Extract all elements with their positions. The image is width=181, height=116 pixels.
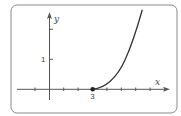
graph-figure: x 3 y 1 <box>0 0 181 116</box>
y-axis-label: y <box>53 14 60 24</box>
start-point-dot <box>90 87 95 92</box>
x-tick-label-3: 3 <box>90 92 95 101</box>
x-axis-label: x <box>155 77 160 87</box>
y-tick-label-1: 1 <box>41 55 46 64</box>
